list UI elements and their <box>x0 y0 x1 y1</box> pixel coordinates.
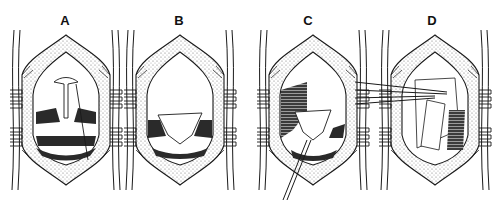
panel-c-drawing <box>257 30 369 200</box>
surgical-illustration: A B C D <box>0 0 492 203</box>
panel-a-drawing <box>10 30 122 190</box>
illustration-canvas <box>0 0 492 203</box>
panel-d-drawing <box>355 30 491 190</box>
panel-b-drawing <box>124 30 236 190</box>
